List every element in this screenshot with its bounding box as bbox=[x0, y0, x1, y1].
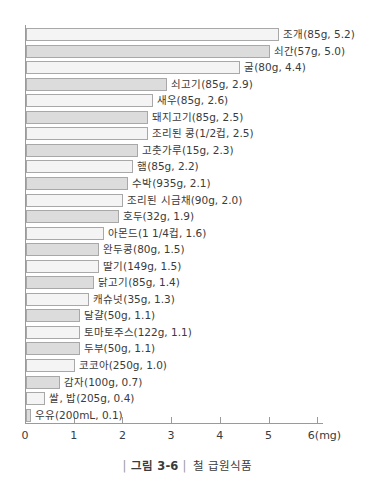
bar-label: 우유(200mL, 0.1) bbox=[35, 408, 123, 423]
caption-prefix-bar: | bbox=[123, 459, 127, 473]
bar-label: 호두(32g, 1.9) bbox=[123, 209, 195, 224]
bar-고춧가루 bbox=[26, 144, 138, 157]
bar-row: 완두콩(80g, 1.5) bbox=[26, 243, 323, 256]
x-tick-label-0: 0 bbox=[22, 429, 29, 442]
bar-조리된 시금치 bbox=[26, 194, 123, 207]
x-tick-label-6: 6(mg) bbox=[308, 429, 341, 442]
bar-label: 두부(50g, 1.1) bbox=[84, 341, 156, 356]
bar-label: 딸기(149g, 1.5) bbox=[103, 259, 181, 274]
bar-쇠간 bbox=[26, 45, 270, 58]
bar-아몬드 bbox=[26, 227, 104, 240]
bar-쌀, 밥 bbox=[26, 392, 45, 405]
bar-label: 조리된 시금채(90g, 2.0) bbox=[127, 193, 242, 208]
bar-코코아 bbox=[26, 359, 75, 372]
bar-row: 굴(80g, 4.4) bbox=[26, 61, 323, 74]
bar-딸기 bbox=[26, 260, 99, 273]
bar-row: 조리된 콩(1/2컵, 2.5) bbox=[26, 127, 323, 140]
bar-label: 쌀, 밥(205g, 0.4) bbox=[49, 391, 134, 406]
caption-suffix-bar: | bbox=[183, 459, 187, 473]
bar-label: 토마토주스(122g, 1.1) bbox=[84, 325, 192, 340]
bar-label: 조리된 콩(1/2컵, 2.5) bbox=[152, 126, 254, 141]
x-tick-label-4: 4 bbox=[216, 429, 223, 442]
bar-label: 새우(85g, 2.6) bbox=[157, 93, 229, 108]
bar-label: 조개(85g, 5.2) bbox=[283, 27, 355, 42]
bar-label: 돼지고기(85g, 2.5) bbox=[152, 110, 244, 125]
bar-조개 bbox=[26, 28, 279, 41]
bar-row: 두부(50g, 1.1) bbox=[26, 342, 323, 355]
bar-row: 새우(85g, 2.6) bbox=[26, 94, 323, 107]
bar-돼지고기 bbox=[26, 111, 148, 124]
bar-row: 호두(32g, 1.9) bbox=[26, 210, 323, 223]
bar-label: 고춧가루(15g, 2.3) bbox=[142, 143, 234, 158]
x-tick-label-3: 3 bbox=[168, 429, 175, 442]
bar-완두콩 bbox=[26, 243, 99, 256]
bar-우유 bbox=[26, 409, 31, 422]
bar-row: 닭고기(85g, 1.4) bbox=[26, 276, 323, 289]
bar-달걀 bbox=[26, 309, 80, 322]
bar-row: 쌀, 밥(205g, 0.4) bbox=[26, 392, 323, 405]
bar-새우 bbox=[26, 94, 153, 107]
bar-label: 햄(85g, 2.2) bbox=[137, 159, 199, 174]
bar-햄 bbox=[26, 160, 133, 173]
bar-label: 코코아(250g, 1.0) bbox=[79, 358, 167, 373]
bar-label: 수박(935g, 2.1) bbox=[132, 176, 210, 191]
bar-label: 쇠간(57g, 5.0) bbox=[274, 44, 346, 59]
bar-토마토주스 bbox=[26, 326, 80, 339]
bar-캐슈넛 bbox=[26, 293, 89, 306]
bar-수박 bbox=[26, 177, 128, 190]
bar-row: 아몬드(1 1/4컵, 1.6) bbox=[26, 227, 323, 240]
x-axis-line bbox=[25, 423, 323, 424]
bar-두부 bbox=[26, 342, 80, 355]
bar-row: 우유(200mL, 0.1) bbox=[26, 409, 323, 422]
bar-닭고기 bbox=[26, 276, 94, 289]
caption-title: 철 급원식품 bbox=[193, 459, 253, 473]
bar-row: 쇠고기(85g, 2.9) bbox=[26, 78, 323, 91]
bar-row: 코코아(250g, 1.0) bbox=[26, 359, 323, 372]
bar-row: 쇠간(57g, 5.0) bbox=[26, 45, 323, 58]
bar-row: 조리된 시금채(90g, 2.0) bbox=[26, 194, 323, 207]
figure-caption: |그림 3-6|철 급원식품 bbox=[0, 457, 371, 473]
bar-label: 아몬드(1 1/4컵, 1.6) bbox=[108, 226, 206, 241]
bar-row: 햄(85g, 2.2) bbox=[26, 160, 323, 173]
bar-굴 bbox=[26, 61, 240, 74]
bar-label: 쇠고기(85g, 2.9) bbox=[171, 77, 253, 92]
bar-label: 캐슈넛(35g, 1.3) bbox=[93, 292, 175, 307]
x-tick-label-2: 2 bbox=[119, 429, 126, 442]
bar-label: 달걀(50g, 1.1) bbox=[84, 308, 156, 323]
bar-쇠고기 bbox=[26, 78, 167, 91]
chart-plot-area: 0123456(mg) 조개(85g, 5.2)쇠간(57g, 5.0)굴(80… bbox=[25, 25, 323, 423]
bar-row: 고춧가루(15g, 2.3) bbox=[26, 144, 323, 157]
bar-row: 토마토주스(122g, 1.1) bbox=[26, 326, 323, 339]
bar-label: 닭고기(85g, 1.4) bbox=[98, 275, 180, 290]
x-tick-label-5: 5 bbox=[265, 429, 272, 442]
bar-감자 bbox=[26, 376, 60, 389]
bar-row: 조개(85g, 5.2) bbox=[26, 28, 323, 41]
bar-row: 딸기(149g, 1.5) bbox=[26, 260, 323, 273]
bar-label: 감자(100g, 0.7) bbox=[64, 375, 142, 390]
bar-row: 돼지고기(85g, 2.5) bbox=[26, 111, 323, 124]
caption-figure-number: 그림 3-6 bbox=[131, 459, 179, 473]
bar-row: 달걀(50g, 1.1) bbox=[26, 309, 323, 322]
bar-row: 캐슈넛(35g, 1.3) bbox=[26, 293, 323, 306]
bar-호두 bbox=[26, 210, 119, 223]
bar-조리된 콩 bbox=[26, 127, 148, 140]
bar-row: 감자(100g, 0.7) bbox=[26, 376, 323, 389]
figure-iron-food-sources: 0123456(mg) 조개(85g, 5.2)쇠간(57g, 5.0)굴(80… bbox=[0, 0, 371, 487]
bar-label: 굴(80g, 4.4) bbox=[244, 60, 306, 75]
bar-row: 수박(935g, 2.1) bbox=[26, 177, 323, 190]
bar-label: 완두콩(80g, 1.5) bbox=[103, 242, 185, 257]
x-tick-label-1: 1 bbox=[70, 429, 77, 442]
